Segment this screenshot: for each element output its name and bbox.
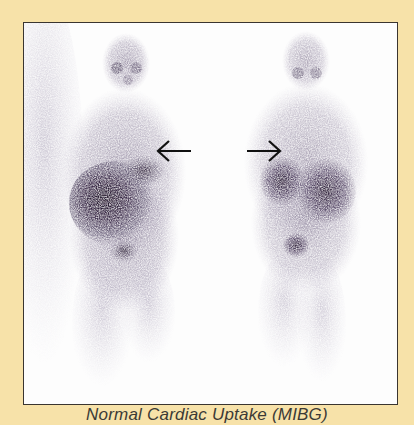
right-arrow-icon [246,140,282,162]
posterior-body-scan [214,23,397,404]
anterior-body-scan [24,23,214,404]
anterior-view-panel [24,23,214,404]
posterior-view-panel [214,23,397,404]
figure-caption: Normal Cardiac Uptake (MIBG) [0,405,414,425]
scintigraphy-image-frame [23,22,398,405]
left-arrow-icon [156,140,192,162]
